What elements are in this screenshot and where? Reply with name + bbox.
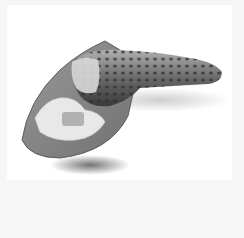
wasabi-illustration [0,0,244,238]
product-photo [7,5,232,180]
grater-teeth [62,112,84,126]
